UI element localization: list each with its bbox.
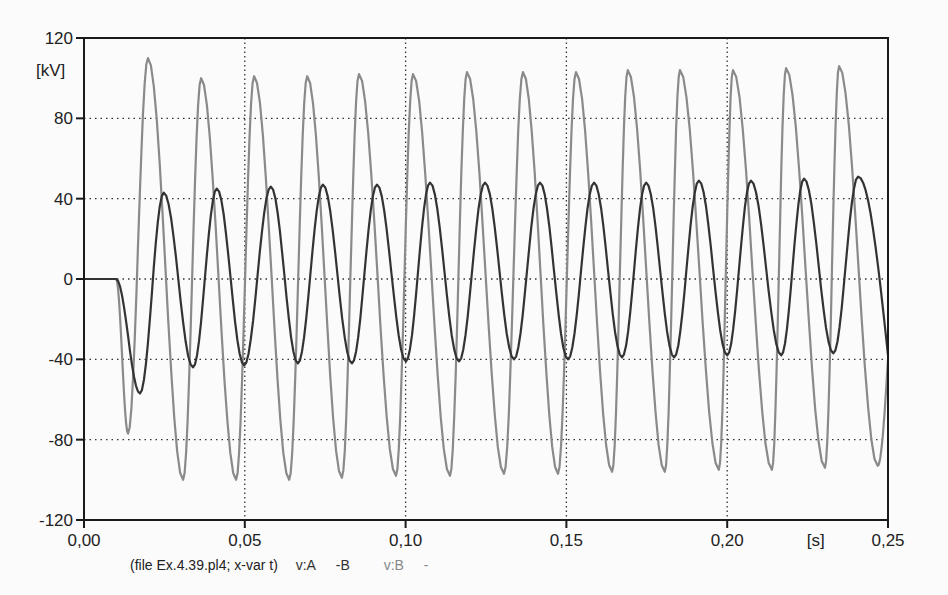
y-tick-label: 120 <box>45 29 73 48</box>
y-tick-label: -120 <box>39 511 73 530</box>
x-tick-label: 0,00 <box>67 531 100 550</box>
axis-ticks: 12080400-40-80-1200,000,050,100,150,200,… <box>39 29 905 550</box>
legend-series-a-name: v:A <box>296 557 316 573</box>
x-tick-label: 0,10 <box>389 531 422 550</box>
x-tick-label: 0,20 <box>711 531 744 550</box>
y-tick-label: 40 <box>54 190 73 209</box>
y-axis-unit-label: [kV] <box>36 61 65 80</box>
legend-series-a-suffix: -B <box>336 557 350 573</box>
x-axis-unit-label: [s] <box>807 531 825 550</box>
y-tick-label: -40 <box>48 350 73 369</box>
legend: (file Ex.4.39.pl4; x-var t) v:A -B v:B - <box>130 557 451 573</box>
y-tick-label: -80 <box>48 431 73 450</box>
x-tick-label: 0,25 <box>871 531 904 550</box>
x-tick-label: 0,05 <box>228 531 261 550</box>
data-series <box>84 58 888 480</box>
chart-canvas: 12080400-40-80-1200,000,050,100,150,200,… <box>0 0 948 595</box>
legend-series-b-suffix: - <box>424 557 429 573</box>
legend-series-b-name: v:B <box>384 557 404 573</box>
legend-file-info: (file Ex.4.39.pl4; x-var t) <box>130 557 278 573</box>
y-tick-label: 80 <box>54 109 73 128</box>
x-tick-label: 0,15 <box>550 531 583 550</box>
y-tick-label: 0 <box>64 270 73 289</box>
